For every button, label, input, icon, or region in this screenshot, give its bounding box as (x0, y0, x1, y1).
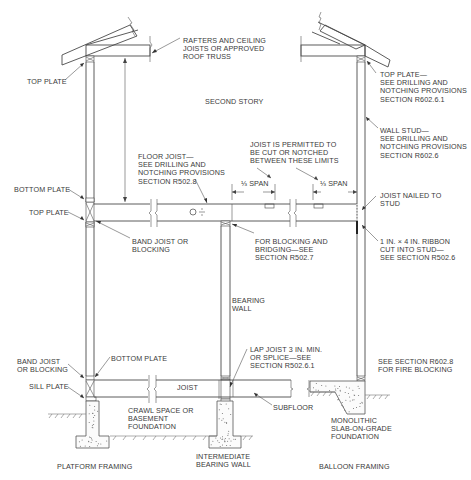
label-bottom-plate-upper: BOTTOM PLATE (14, 186, 70, 194)
title-balloon-framing: BALLOON FRAMING (319, 463, 390, 471)
title-platform-framing: PLATFORM FRAMING (57, 463, 132, 471)
label-ribbon: 1 IN. × 4 IN. RIBBON CUT INTO STUD— SEE … (380, 238, 455, 263)
right-wall (356, 62, 365, 381)
label-floor-joist: FLOOR JOIST— SEE DRILLING AND NOTCHING P… (138, 153, 225, 186)
label-wall-stud: WALL STUD— SEE DRILLING AND NOTCHING PRO… (380, 127, 467, 160)
label-joist-permitted: JOIST IS PERMITTED TO BE CUT OR NOTCHED … (250, 141, 339, 166)
intermediate-wall (221, 221, 230, 403)
label-second-story: SECOND STORY (205, 98, 263, 106)
label-subfloor: SUBFLOOR (273, 404, 313, 412)
left-foundation (76, 401, 109, 448)
label-lap-joist: LAP JOIST 3 IN. MIN. OR SPLICE—SEE SECTI… (250, 346, 322, 371)
label-joist-nailed: JOIST NAILED TO STUD (380, 192, 441, 208)
roof-left (62, 17, 152, 65)
label-joist: JOIST (177, 384, 198, 392)
label-bearing-wall: BEARING WALL (232, 297, 265, 313)
label-top-plate-mid: TOP PLATE (29, 209, 69, 217)
slab-foundation (310, 381, 365, 414)
label-intermediate-bearing-wall: INTERMEDIATE BEARING WALL (196, 453, 251, 469)
label-bottom-plate-lower: BOTTOM PLATE (111, 355, 167, 363)
roof-right (301, 12, 390, 67)
label-sill-plate: SILL PLATE (29, 383, 69, 391)
label-rafters: RAFTERS AND CEILING JOISTS OR APPROVED R… (183, 37, 266, 62)
label-span-right: ⅓ SPAN (320, 180, 348, 188)
lower-floor (94, 375, 309, 403)
label-fire-blocking: SEE SECTION R602.8 FOR FIRE BLOCKING (378, 358, 453, 374)
label-top-plate-right: TOP PLATE— SEE DRILLING AND NOTCHING PRO… (380, 71, 467, 104)
label-span-left: ⅓ SPAN (241, 180, 269, 188)
label-band-joist-upper: BAND JOIST OR BLOCKING (132, 238, 188, 254)
label-blocking-bridging: FOR BLOCKING AND BRIDGING—SEE SECTION R5… (255, 238, 328, 263)
label-monolithic: MONOLITHIC SLAB-ON-GRADE FOUNDATION (331, 417, 392, 442)
label-crawl-space: CRAWL SPACE OR BASEMENT FOUNDATION (128, 407, 193, 432)
label-top-plate-left: TOP PLATE (27, 78, 67, 86)
label-band-joist-lower: BAND JOIST OR BLOCKING (17, 358, 68, 374)
left-wall (86, 62, 96, 401)
